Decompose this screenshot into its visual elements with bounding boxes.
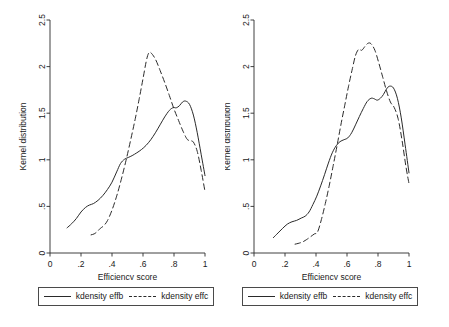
legend-label-effb: kdensity effb bbox=[280, 292, 328, 301]
legend-entry-effb: kdensity effb bbox=[44, 292, 124, 301]
legend-entry-effc: kdensity effc bbox=[333, 292, 412, 301]
y-tick-label: 1.5 bbox=[37, 107, 47, 119]
series-line-effb bbox=[67, 101, 205, 228]
y-tick-label: 0 bbox=[37, 250, 47, 255]
legend-key-solid-icon bbox=[44, 296, 71, 298]
x-tick-label: 1 bbox=[407, 259, 412, 269]
legend-label-effc: kdensity effc bbox=[365, 292, 412, 301]
y-tick-label: 2 bbox=[241, 64, 251, 69]
y-tick-label: 0 bbox=[241, 250, 251, 255]
y-tick-label: .5 bbox=[241, 203, 251, 210]
x-tick-label: .2 bbox=[281, 259, 288, 269]
legend-entry-effc: kdensity effc bbox=[129, 292, 208, 301]
y-tick-label: 1.5 bbox=[241, 107, 251, 119]
chart-panel-right: 0.511.522.50.2.4.6.81Efficiency scoreKer… bbox=[225, 0, 449, 327]
series-line-effc bbox=[295, 43, 409, 244]
x-tick-label: 0 bbox=[48, 259, 53, 269]
legend-right: kdensity effb kdensity effc bbox=[242, 287, 418, 306]
plot-area-right: 0.511.522.50.2.4.6.81Efficiency scoreKer… bbox=[225, 0, 449, 280]
x-tick-label: .6 bbox=[139, 259, 146, 269]
legend-key-dashed-icon bbox=[129, 296, 156, 298]
legend-label-effc: kdensity effc bbox=[161, 292, 208, 301]
x-tick-label: 0 bbox=[252, 259, 257, 269]
legend-left: kdensity effb kdensity effc bbox=[38, 287, 214, 306]
y-tick-label: 2.5 bbox=[37, 14, 47, 26]
legend-key-dashed-icon bbox=[333, 296, 360, 298]
y-axis-title: Kernel distribution bbox=[18, 102, 28, 170]
kernel-density-figure: 0.511.522.50.2.4.6.81Efficiency scoreKer… bbox=[0, 0, 449, 327]
x-tick-label: .8 bbox=[170, 259, 177, 269]
x-axis-title: Efficiency score bbox=[98, 272, 158, 280]
chart-panel-left: 0.511.522.50.2.4.6.81Efficiency scoreKer… bbox=[0, 0, 224, 327]
y-tick-label: 1 bbox=[241, 157, 251, 162]
series-line-effb bbox=[273, 86, 409, 238]
y-tick-label: 1 bbox=[37, 157, 47, 162]
y-tick-label: 2 bbox=[37, 64, 47, 69]
x-tick-label: .4 bbox=[312, 259, 319, 269]
x-tick-label: .4 bbox=[108, 259, 115, 269]
legend-key-solid-icon bbox=[248, 296, 275, 298]
x-tick-label: .6 bbox=[343, 259, 350, 269]
plot-area-left: 0.511.522.50.2.4.6.81Efficiency scoreKer… bbox=[0, 0, 224, 280]
x-tick-label: 1 bbox=[203, 259, 208, 269]
y-tick-label: .5 bbox=[37, 203, 47, 210]
y-tick-label: 2.5 bbox=[241, 14, 251, 26]
x-tick-label: .2 bbox=[77, 259, 84, 269]
y-axis-title: Kernel distribution bbox=[225, 102, 232, 170]
x-tick-label: .8 bbox=[374, 259, 381, 269]
legend-entry-effb: kdensity effb bbox=[248, 292, 328, 301]
x-axis-title: Efficiency score bbox=[302, 272, 362, 280]
legend-label-effb: kdensity effb bbox=[76, 292, 124, 301]
